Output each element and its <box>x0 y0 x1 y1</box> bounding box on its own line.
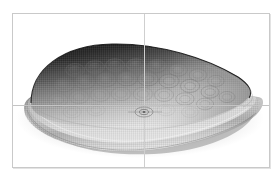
viewport-frame-border <box>12 13 270 168</box>
render-viewport: dimpled-ovoid-shell Shaded grayscale 3D … <box>0 0 280 180</box>
